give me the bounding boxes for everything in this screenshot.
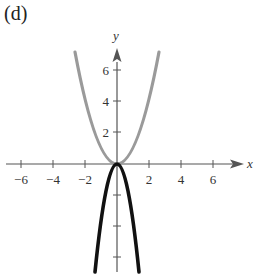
x-tick-label: −4 — [46, 172, 60, 187]
y-tick-label: 2 — [103, 125, 110, 140]
parabola-graph: −6 −4 −2 2 4 6 x 6 4 2 y — [0, 0, 254, 280]
x-tick-label: 6 — [210, 172, 217, 187]
x-tick-label: 4 — [178, 172, 185, 187]
y-tick-label: 6 — [103, 63, 110, 78]
y-axis-arrow-icon — [113, 48, 122, 62]
x-axis-label: x — [246, 156, 253, 171]
x-tick-label: 2 — [146, 172, 153, 187]
x-tick-label: −6 — [14, 172, 28, 187]
x-tick-label: −2 — [78, 172, 92, 187]
x-axis: −6 −4 −2 2 4 6 x — [6, 156, 253, 187]
y-axis: 6 4 2 y — [103, 28, 122, 272]
y-axis-label: y — [111, 28, 119, 43]
y-tick-label: 4 — [103, 94, 110, 109]
